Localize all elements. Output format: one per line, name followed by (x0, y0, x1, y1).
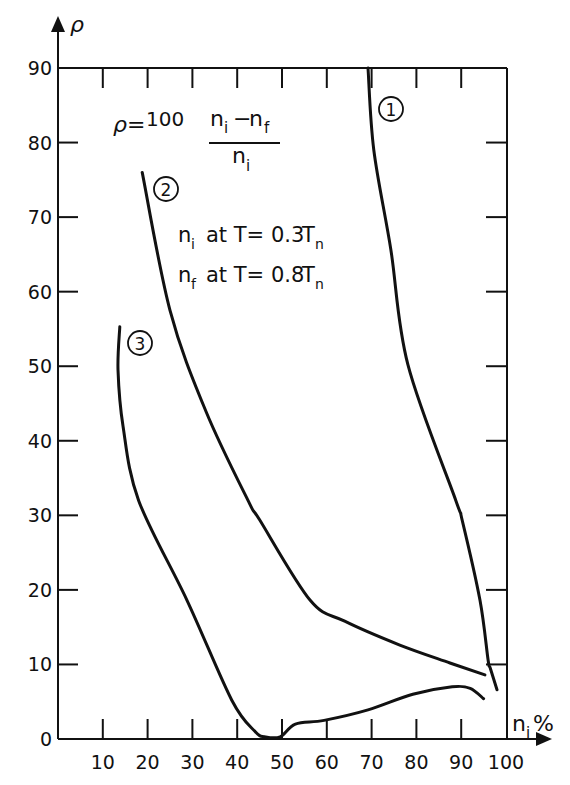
curves (118, 68, 497, 738)
y-tick-label: 90 (28, 57, 52, 79)
y-tick-label: 10 (28, 653, 52, 675)
chart: 1020304050607080901000102030405060708090… (0, 0, 570, 785)
formula-num-n2: n (249, 106, 263, 131)
x-tick-label: 50 (270, 751, 294, 773)
cond2-text: at T= 0.8 (206, 263, 304, 287)
x-tick-label: 30 (180, 751, 204, 773)
formula-num-i: i (224, 119, 228, 137)
y-tick-label: 40 (28, 430, 52, 452)
cond1-n: n (178, 223, 191, 247)
axis-ticks (58, 68, 506, 739)
curve-3 (118, 327, 484, 738)
x-tick-label: 10 (91, 751, 115, 773)
curve-label-2: 2 (154, 177, 178, 201)
x-tick-label: 90 (449, 751, 473, 773)
formula-rho: ρ (113, 112, 127, 137)
condition-annotation: n i at T= 0.3 T n n f at T= 0.8 T n (178, 223, 324, 292)
formula-den-i: i (246, 157, 250, 175)
cond1-Tsub: n (315, 236, 324, 252)
curve-label-1-text: 1 (386, 100, 397, 120)
formula-eq: = (127, 112, 145, 137)
y-tick-label: 60 (28, 281, 52, 303)
y-axis-title: ρ (70, 12, 84, 37)
x-axis-title-n: n (512, 711, 526, 736)
x-axis-title-sub: i (526, 724, 530, 742)
x-tick-label: 60 (315, 751, 339, 773)
x-axis-title-unit: % (533, 711, 554, 736)
curve-label-3: 3 (128, 331, 152, 355)
curve-1 (368, 68, 497, 690)
x-tick-label: 40 (225, 751, 249, 773)
y-tick-label: 50 (28, 355, 52, 377)
x-tick-label: 100 (488, 751, 524, 773)
formula-num-f: f (264, 119, 270, 137)
axis-tick-labels: 1020304050607080901000102030405060708090 (28, 57, 524, 773)
cond1-sub: i (191, 236, 195, 252)
y-tick-label: 0 (40, 728, 52, 750)
y-tick-label: 70 (28, 206, 52, 228)
formula-coef: 100 (146, 107, 184, 131)
cond2-n: n (178, 263, 191, 287)
curve-label-2-text: 2 (161, 180, 172, 200)
x-tick-label: 80 (404, 751, 428, 773)
y-tick-label: 80 (28, 132, 52, 154)
cond2-Tsub: n (315, 276, 324, 292)
cond1-text: at T= 0.3 (206, 223, 304, 247)
y-tick-label: 20 (28, 579, 52, 601)
formula-annotation: ρ = 100 n i − n f n i (113, 106, 280, 175)
curve-label-1: 1 (379, 97, 403, 121)
cond1-T: T (301, 223, 315, 247)
cond2-T: T (301, 263, 315, 287)
y-tick-label: 30 (28, 504, 52, 526)
cond2-sub: f (191, 276, 197, 292)
formula-den-n: n (232, 143, 246, 168)
x-tick-label: 70 (360, 751, 384, 773)
formula-num-n1: n (210, 106, 224, 131)
y-axis-arrow-icon (51, 16, 65, 32)
x-tick-label: 20 (136, 751, 160, 773)
curve-label-3-text: 3 (135, 334, 146, 354)
